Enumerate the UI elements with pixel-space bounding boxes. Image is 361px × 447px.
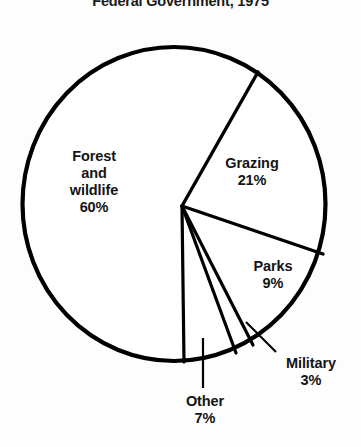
slice-label-other-name: Other: [163, 393, 247, 410]
slice-label-military-name: Military: [266, 355, 356, 372]
slice-label-other: Other 7%: [163, 393, 247, 427]
slice-label-grazing: Grazing 21%: [206, 155, 298, 189]
pie-chart-figure: Federal Government, 1975 Forest and wild…: [0, 0, 361, 447]
slice-label-forest-line1: Forest: [38, 148, 150, 165]
slice-label-grazing-name: Grazing: [206, 155, 298, 172]
slice-value-military: 3%: [266, 372, 356, 389]
slice-value-parks: 9%: [232, 275, 314, 292]
slice-divider-other-forest: [182, 206, 184, 362]
slice-label-forest-line3: wildlife: [38, 182, 150, 199]
slice-label-parks: Parks 9%: [232, 258, 314, 292]
slice-label-military: Military 3%: [266, 355, 356, 389]
slice-label-parks-name: Parks: [232, 258, 314, 275]
slice-label-forest-line2: and: [38, 165, 150, 182]
slice-value-forest: 60%: [38, 199, 150, 216]
slice-value-other: 7%: [163, 410, 247, 427]
slice-label-forest-and-wildlife: Forest and wildlife 60%: [38, 148, 150, 216]
slice-value-grazing: 21%: [206, 172, 298, 189]
